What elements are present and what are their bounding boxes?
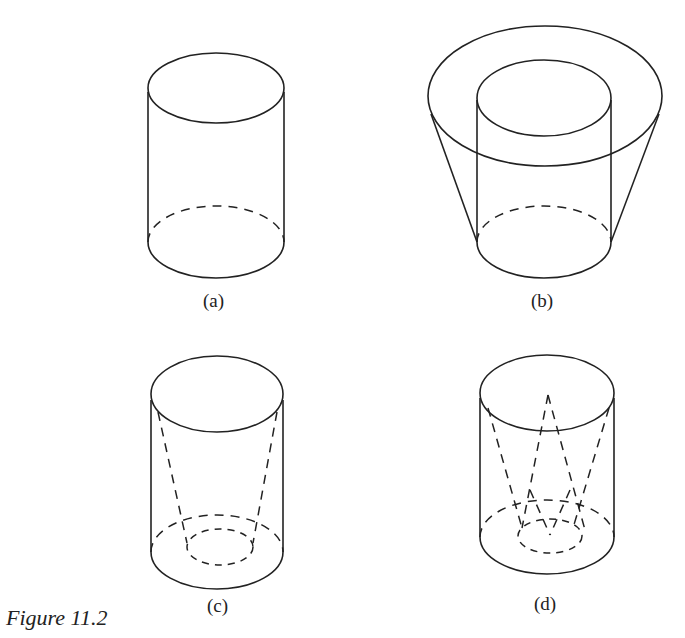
panel-a-label: (a) xyxy=(203,290,224,312)
panel-b-label: (b) xyxy=(531,290,553,312)
panel-d-cylinder-crossing-cones xyxy=(480,355,614,574)
panel-b-cone-cylinder xyxy=(428,26,662,278)
figure-caption: Figure 11.2 xyxy=(6,605,107,631)
panel-c-cylinder-inner-frustum xyxy=(151,356,283,589)
panel-c-label: (c) xyxy=(207,595,228,617)
panel-d-label: (d) xyxy=(534,593,556,615)
panel-a-cylinder xyxy=(148,53,284,278)
figure-drawing xyxy=(0,0,685,638)
